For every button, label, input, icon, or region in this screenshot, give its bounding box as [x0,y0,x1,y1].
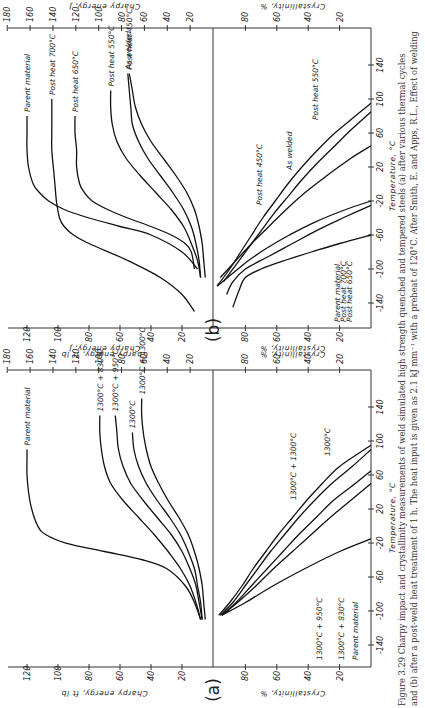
tick-label-temperature: 20 [376,162,385,172]
tick-label-crystallinity: 80 [241,671,250,681]
energy-curve-label: Parent material [23,386,32,445]
tick-label-temperature: 100 [376,91,385,106]
tick-label-temperature: -140 [376,294,385,312]
crystallinity-curve [222,539,371,616]
tick-label-ftlb: 40 [147,332,156,342]
tick-label-joules: 140 [49,349,58,364]
energy-curve-label: Post heat 700°C [48,33,57,95]
axis-title-crystallinity-top: Crystallinity, % [260,2,326,11]
energy-curve-label: 1300°C + 950°C [111,348,120,411]
tick-label-ftlb: 20 [178,332,187,342]
tick-label-crystallinity: 20 [336,354,345,364]
energy-curve [115,416,202,620]
tick-label-joules: 140 [49,7,58,22]
tick-label-temperature: 140 [376,57,385,72]
tick-label-crystallinity: 60 [273,332,282,342]
energy-curve-label: Post heat 650°C [71,50,80,112]
tick-label-joules: 60 [140,12,149,22]
tick-label-temperature: -100 [376,260,385,278]
crystallinity-curve-label: 1300°C [323,427,332,456]
tick-label-temperature: 20 [376,504,385,514]
tick-label-joules: 40 [163,354,172,364]
axis-title-ftlb: Charpy energy, ft lb [61,689,148,698]
crystallinity-curve [222,484,371,616]
energy-curve [100,416,201,620]
energy-curve-label: Post heat 450°C [125,8,134,70]
axis-title-crystallinity: Crystallinity, % [260,689,326,698]
tick-label-joules: 20 [186,354,195,364]
tick-label-ftlb: 60 [116,671,125,681]
tick-label-crystallinity: 60 [273,12,282,22]
panel-label-a: (a) [203,678,223,702]
tick-label-crystallinity: 20 [336,671,345,681]
figure-caption: Figure 3.29 Charpy impact and crystallin… [397,30,419,706]
tick-label-ftlb: 60 [116,332,125,342]
tick-label-temperature: -20 [376,536,385,549]
tick-label-joules: 40 [163,12,172,22]
crystallinity-curve-label: As welded [285,131,294,171]
tick-label-crystallinity: 20 [336,332,345,342]
tick-label-ftlb: 80 [85,332,94,342]
tick-label-temperature: -140 [376,636,385,654]
energy-curve-label: 1300°C + 1300°C [138,327,147,395]
energy-curve [75,116,194,269]
energy-curve [27,116,198,269]
tick-label-crystallinity: 60 [273,671,282,681]
tick-label-crystallinity: 40 [304,671,313,681]
tick-label-ftlb: 100 [54,666,63,681]
axis-title-crystallinity-top: Crystallinity, % [260,344,326,353]
tick-label-temperature: -60 [376,570,385,583]
tick-label-crystallinity: 80 [241,332,250,342]
tick-label-crystallinity: 20 [336,12,345,22]
tick-label-ftlb: 120 [23,327,32,342]
tick-label-temperature: -60 [376,228,385,241]
energy-curve [52,99,195,312]
panel-a: 2040608010012020406080100120140160180202… [3,327,397,702]
tick-label-temperature: -20 [376,194,385,207]
crystallinity-curve [220,146,371,278]
energy-curve-label: Parent material [23,53,32,112]
tick-label-crystallinity: 40 [304,12,313,22]
crystallinity-curve-label: Post heat 450°C [255,143,264,205]
energy-curve-label: 1300°C + 830°C [96,348,105,411]
crystallinity-curve-label: 1300°C + 950°C [315,597,324,660]
tick-label-ftlb: 80 [85,671,94,681]
caption-line-2: and (b) after a post-weld heat treatment… [409,30,419,706]
tick-label-joules: 160 [26,349,35,364]
tick-label-joules: 180 [3,7,12,22]
tick-label-crystallinity: 80 [241,12,250,22]
tick-label-ftlb: 40 [147,671,156,681]
axis-title-temperature: Temperature, °C [388,482,397,553]
tick-label-ftlb: 100 [54,327,63,342]
tick-label-joules: 20 [186,12,195,22]
tick-label-temperature: 60 [376,128,385,138]
caption-line-1: Figure 3.29 Charpy impact and crystallin… [397,53,407,706]
tick-label-crystallinity: 40 [304,354,313,364]
energy-curve-label: Post heat 550°C [107,25,116,87]
crystallinity-curve-label: 1300°C + 830°C [337,597,346,660]
crystallinity-curve-label: Post heat 550°C [311,58,320,120]
crystallinity-curve-label: Parent material [351,601,360,660]
panel-b: 2040608010012020406080100120140160180202… [3,2,397,359]
tick-label-temperature: 100 [376,433,385,448]
figure-3-29: 2040608010012020406080100120140160180202… [0,0,425,708]
panel-label-b: (b) [203,318,223,342]
crystallinity-curve-label: Parent material [333,263,342,322]
tick-label-crystallinity: 80 [241,354,250,364]
energy-curve [111,91,201,278]
tick-label-temperature: 140 [376,399,385,414]
tick-label-joules: 160 [26,7,35,22]
crystallinity-curve-label: 1300°C + 1300°C [289,432,298,500]
tick-label-ftlb: 20 [178,671,187,681]
tick-label-crystallinity: 60 [273,354,282,364]
energy-curve [27,450,201,620]
energy-curve [128,74,201,278]
tick-label-crystallinity: 40 [304,332,313,342]
tick-label-joules: 180 [3,349,12,364]
tick-label-ftlb: 120 [23,666,32,681]
tick-label-temperature: -100 [376,602,385,620]
crystallinity-curve-label: Post heat 650°C [345,260,354,322]
axis-title-temperature: Temperature, °C [388,140,397,211]
energy-curve-label: 1300°C [128,400,137,429]
tick-label-temperature: 60 [376,470,385,480]
